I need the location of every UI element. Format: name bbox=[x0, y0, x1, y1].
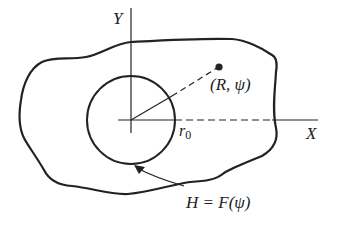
outer-boundary-curve bbox=[19, 39, 276, 194]
radius-label: r0 bbox=[179, 122, 191, 142]
contour-arrow-line bbox=[137, 168, 184, 186]
point-label: (R, ψ) bbox=[210, 75, 251, 94]
radius-label-subscript: 0 bbox=[185, 128, 191, 142]
y-axis-label: Y bbox=[113, 9, 124, 28]
x-axis-label: X bbox=[305, 124, 317, 143]
arrow-head-icon bbox=[134, 165, 145, 174]
contour-label: H = F(ψ) bbox=[185, 193, 251, 212]
radius-vector-solid bbox=[131, 96, 172, 120]
diagram-canvas: Y X (R, ψ) r0 H = F(ψ) bbox=[0, 0, 340, 228]
point-marker bbox=[215, 63, 222, 70]
